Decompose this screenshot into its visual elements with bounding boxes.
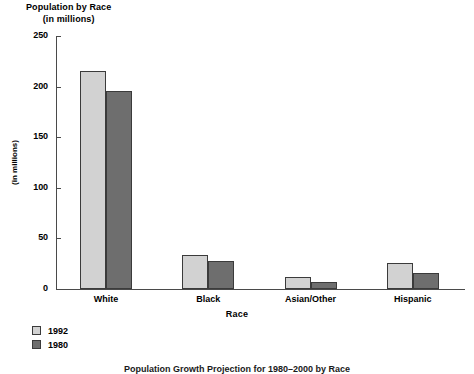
bar-black-1980 <box>208 261 234 289</box>
legend-item: 1980 <box>32 339 68 350</box>
bar-chart: Population by Race (in millions) 0501001… <box>0 0 474 374</box>
legend-swatch-icon <box>32 326 41 335</box>
chart-title-line2: (in millions) <box>26 13 111 25</box>
x-axis-category-label: Asian/Other <box>261 294 361 304</box>
bar-asian-other-1980 <box>311 282 337 289</box>
bar-hispanic-1992 <box>387 263 413 289</box>
y-axis-tick-label: 250 <box>14 30 48 40</box>
y-axis-tick-label: 50 <box>14 232 48 242</box>
bar-hispanic-1980 <box>413 273 439 289</box>
x-axis-line <box>56 289 465 290</box>
legend-label: 1992 <box>48 326 68 336</box>
x-axis-title: Race <box>0 309 474 319</box>
y-axis-tick-label: 200 <box>14 81 48 91</box>
bars-area <box>56 36 465 289</box>
bar-white-1980 <box>106 91 132 289</box>
chart-title: Population by Race (in millions) <box>26 1 111 25</box>
y-axis-tick-label: 100 <box>14 182 48 192</box>
x-axis-category-label: White <box>56 294 156 304</box>
x-axis-category-label: Hispanic <box>363 294 463 304</box>
bar-black-1992 <box>182 255 208 289</box>
bar-asian-other-1992 <box>285 277 311 289</box>
y-axis-title: (in millions) <box>10 133 19 193</box>
y-axis-tick-label: 150 <box>14 131 48 141</box>
legend-label: 1980 <box>48 340 68 350</box>
x-axis-category-label: Black <box>158 294 258 304</box>
chart-title-line1: Population by Race <box>26 1 111 13</box>
legend-item: 1992 <box>32 325 68 336</box>
y-axis-tick-label: 0 <box>14 283 48 293</box>
chart-caption: Population Growth Projection for 1980–20… <box>0 364 474 374</box>
bar-white-1992 <box>80 71 106 289</box>
chart-legend: 1992 1980 <box>32 325 68 353</box>
y-axis-tick <box>56 289 61 290</box>
legend-swatch-icon <box>32 340 41 349</box>
